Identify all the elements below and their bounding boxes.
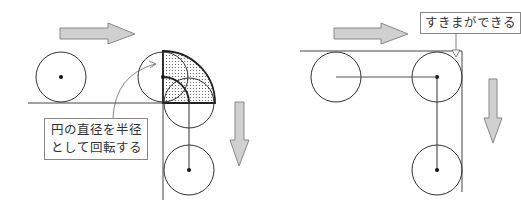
center-dot: [59, 75, 63, 79]
gap-pointer-head: [452, 50, 460, 57]
left-caption-box: 円の直径を半径 として回転する: [44, 118, 148, 160]
center-dot: [435, 168, 439, 172]
right-diagram: [300, 23, 502, 195]
right-arrow-icon: [60, 23, 135, 44]
caption-line-2: として回転する: [50, 139, 142, 157]
right-arrow-icon: [334, 23, 408, 44]
down-arrow-icon: [230, 102, 249, 166]
pointer-curve: [113, 64, 155, 118]
down-arrow-icon: [484, 79, 502, 143]
rotation-quarter-shaded: [163, 51, 215, 103]
right-caption-box: すきまができる: [420, 12, 521, 34]
caption-line-1: 円の直径を半径: [50, 121, 142, 139]
gap-caption: すきまができる: [425, 15, 516, 30]
left-diagram: [28, 23, 249, 200]
